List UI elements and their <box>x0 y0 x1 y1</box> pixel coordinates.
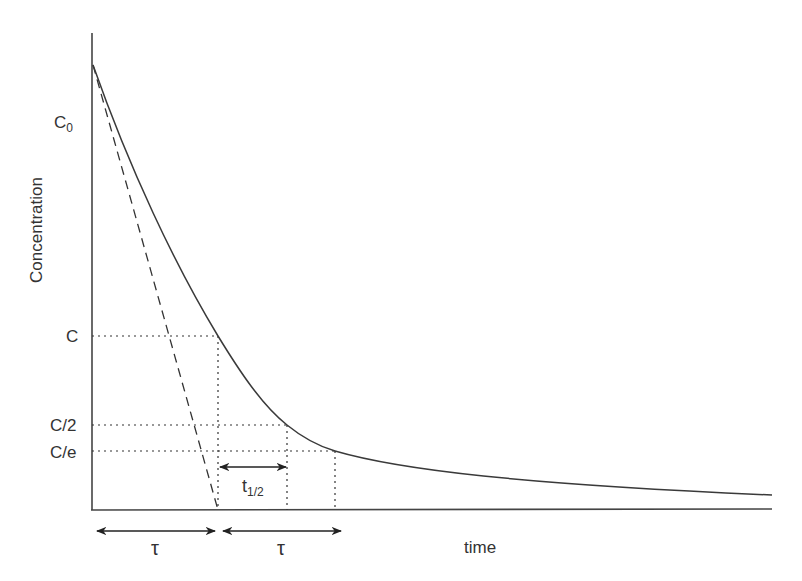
label-c0-subscript: 0 <box>66 121 73 135</box>
label-half-life: t1/2 <box>242 476 264 499</box>
label-c-e: C/e <box>50 443 76 462</box>
x-axis <box>91 509 772 510</box>
label-tau-2: τ <box>277 537 285 559</box>
y-axis-title: Concentration <box>27 177 46 283</box>
label-c-half: C/2 <box>50 416 76 435</box>
label-c: C <box>66 327 78 346</box>
x-axis-title: time <box>464 538 496 557</box>
initial-tangent-line <box>93 65 218 510</box>
label-half-life-subscript: 1/2 <box>247 485 264 499</box>
concentration-decay-diagram: C0 C C/2 C/e τ τ t1/2 Concentration time <box>0 0 802 581</box>
guide-lines <box>92 336 335 510</box>
decay-curve <box>93 65 772 495</box>
label-tau-1: τ <box>151 537 159 559</box>
label-c0: C0 <box>54 113 73 135</box>
